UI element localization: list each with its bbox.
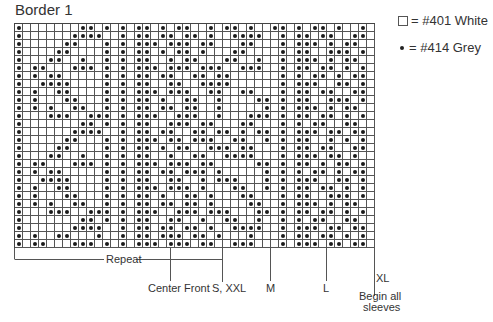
chart-cell	[119, 200, 127, 208]
chart-cell	[71, 56, 79, 64]
chart-cell	[95, 64, 103, 72]
chart-cell	[111, 168, 119, 176]
chart-cell	[79, 104, 87, 112]
chart-cell	[319, 176, 327, 184]
chart-cell	[367, 40, 375, 48]
chart-cell	[199, 192, 207, 200]
chart-cell	[71, 232, 79, 240]
chart-cell	[79, 144, 87, 152]
chart-cell	[311, 216, 319, 224]
chart-cell	[327, 80, 335, 88]
chart-cell	[263, 200, 271, 208]
chart-cell	[271, 104, 279, 112]
chart-cell	[215, 144, 223, 152]
chart-cell	[47, 200, 55, 208]
chart-cell	[135, 232, 143, 240]
chart-cell	[311, 160, 319, 168]
chart-cell	[255, 128, 263, 136]
chart-cell	[303, 120, 311, 128]
chart-cell	[87, 168, 95, 176]
chart-cell	[143, 232, 151, 240]
chart-cell	[167, 160, 175, 168]
chart-cell	[143, 192, 151, 200]
chart-cell	[63, 240, 71, 248]
chart-cell	[167, 80, 175, 88]
chart-cell	[143, 152, 151, 160]
chart-cell	[295, 216, 303, 224]
chart-cell	[55, 192, 63, 200]
chart-cell	[279, 192, 287, 200]
chart-cell	[263, 104, 271, 112]
chart-cell	[319, 48, 327, 56]
chart-cell	[239, 48, 247, 56]
chart-cell	[183, 216, 191, 224]
chart-cell	[207, 80, 215, 88]
chart-cell	[159, 56, 167, 64]
chart-cell	[183, 208, 191, 216]
chart-cell	[87, 240, 95, 248]
chart-cell	[175, 184, 183, 192]
chart-cell	[55, 80, 63, 88]
chart-cell	[303, 96, 311, 104]
chart-cell	[199, 224, 207, 232]
chart-cell	[279, 104, 287, 112]
chart-cell	[215, 48, 223, 56]
chart-cell	[191, 160, 199, 168]
chart-cell	[359, 240, 367, 248]
chart-cell	[239, 40, 247, 48]
chart-cell	[335, 176, 343, 184]
chart-cell	[231, 32, 239, 40]
chart-cell	[183, 224, 191, 232]
chart-cell	[87, 152, 95, 160]
chart-cell	[295, 104, 303, 112]
chart-cell	[199, 232, 207, 240]
chart-cell	[71, 168, 79, 176]
chart-cell	[159, 168, 167, 176]
chart-cell	[303, 88, 311, 96]
chart-cell	[71, 176, 79, 184]
chart-cell	[159, 48, 167, 56]
chart-cell	[239, 208, 247, 216]
chart-cell	[239, 88, 247, 96]
chart-cell	[279, 224, 287, 232]
chart-cell	[159, 72, 167, 80]
chart-cell	[263, 240, 271, 248]
chart-cell	[207, 176, 215, 184]
chart-cell	[135, 64, 143, 72]
chart-cell	[151, 168, 159, 176]
chart-cell	[71, 40, 79, 48]
chart-cell	[191, 104, 199, 112]
chart-cell	[47, 208, 55, 216]
chart-cell	[255, 200, 263, 208]
chart-cell	[279, 72, 287, 80]
chart-cell	[15, 216, 23, 224]
chart-cell	[127, 56, 135, 64]
chart-cell	[103, 24, 111, 32]
chart-cell	[263, 144, 271, 152]
chart-cell	[15, 32, 23, 40]
chart-cell	[215, 152, 223, 160]
chart-cell	[295, 120, 303, 128]
chart-cell	[207, 192, 215, 200]
chart-cell	[31, 120, 39, 128]
chart-cell	[79, 48, 87, 56]
chart-cell	[127, 24, 135, 32]
chart-cell	[111, 176, 119, 184]
chart-cell	[263, 168, 271, 176]
chart-cell	[207, 104, 215, 112]
chart-cell	[135, 32, 143, 40]
chart-cell	[151, 48, 159, 56]
chart-cell	[31, 112, 39, 120]
chart-cell	[351, 96, 359, 104]
chart-cell	[175, 192, 183, 200]
chart-cell	[239, 32, 247, 40]
chart-cell	[159, 232, 167, 240]
chart-cell	[127, 184, 135, 192]
chart-cell	[127, 32, 135, 40]
chart-cell	[287, 152, 295, 160]
chart-cell	[335, 96, 343, 104]
chart-cell	[167, 120, 175, 128]
chart-cell	[255, 144, 263, 152]
chart-cell	[103, 32, 111, 40]
chart-cell	[295, 232, 303, 240]
